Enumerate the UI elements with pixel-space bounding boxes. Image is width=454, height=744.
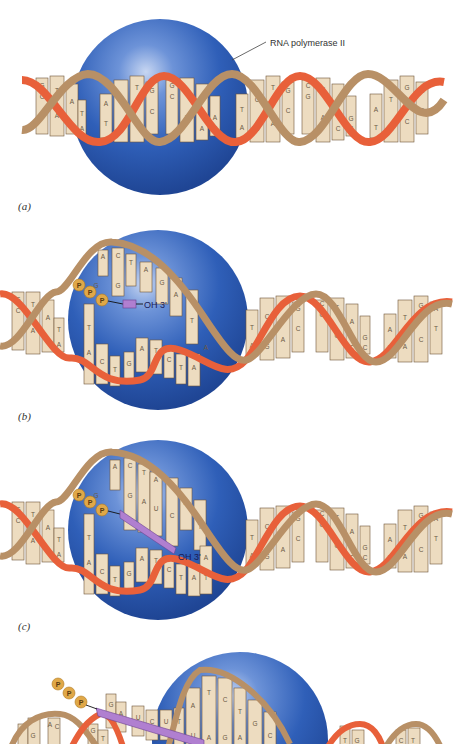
svg-text:T: T (250, 324, 254, 331)
callout-line (232, 42, 266, 60)
svg-text:G: G (127, 492, 132, 499)
svg-text:T: T (403, 524, 407, 531)
svg-text:C: C (100, 358, 105, 365)
svg-text:C: C (296, 535, 301, 542)
svg-text:A: A (213, 114, 218, 121)
svg-text:A: A (240, 124, 245, 131)
svg-text:A: A (174, 291, 179, 298)
svg-text:P: P (77, 492, 82, 499)
svg-text:T: T (411, 737, 415, 744)
svg-text:U: U (154, 505, 159, 512)
svg-text:T: T (113, 366, 117, 373)
svg-text:T: T (343, 737, 347, 744)
svg-text:T: T (80, 110, 84, 117)
svg-text:C: C (55, 723, 60, 730)
panel-a-illustration: GCTAATTA ATCGTAGC GCATTAAT TACGTAGC CGTA… (0, 0, 454, 220)
svg-text:T: T (207, 689, 211, 696)
svg-text:G: G (362, 334, 367, 341)
svg-text:A: A (101, 253, 106, 260)
panel-b: GCTAATTA ACGTAGAT TACTGATCTAAT G TACGTAG… (0, 220, 454, 430)
svg-text:T: T (389, 96, 393, 103)
svg-text:C: C (116, 252, 121, 259)
svg-text:T: T (179, 574, 183, 581)
svg-text:C: C (223, 696, 228, 703)
svg-text:G: G (115, 282, 120, 289)
svg-text:P: P (100, 297, 105, 304)
svg-text:P: P (67, 690, 72, 697)
svg-text:G: G (404, 84, 409, 91)
svg-text:A: A (388, 326, 393, 333)
svg-text:T: T (57, 326, 61, 333)
svg-text:T: T (238, 708, 242, 715)
svg-text:G: G (90, 727, 95, 734)
svg-text:A: A (46, 524, 51, 531)
rna-polymerase-sphere (72, 19, 248, 195)
svg-text:C: C (170, 512, 175, 519)
svg-text:T: T (142, 469, 146, 476)
svg-text:A: A (57, 341, 62, 348)
svg-text:T: T (104, 120, 108, 127)
panel-a: GCTAATTA ATCGTAGC GCATTAAT TACGTAGC CGTA… (0, 0, 454, 220)
svg-text:G: G (354, 737, 359, 744)
panel-label-c: (c) (18, 620, 30, 632)
svg-text:T: T (434, 325, 438, 332)
svg-text:A: A (200, 125, 205, 132)
svg-text:C: C (150, 108, 155, 115)
svg-text:A: A (281, 546, 286, 553)
svg-text:A: A (46, 314, 51, 321)
svg-text:P: P (88, 499, 93, 506)
svg-text:G: G (305, 93, 310, 100)
svg-text:A: A (142, 498, 147, 505)
svg-text:C: C (419, 336, 424, 343)
svg-text:T: T (190, 317, 194, 324)
svg-text:A: A (48, 721, 53, 728)
svg-text:G: G (362, 544, 367, 551)
svg-text:G: G (252, 720, 257, 727)
svg-text:A: A (113, 463, 118, 470)
svg-text:C: C (399, 737, 404, 744)
svg-text:G: G (30, 732, 35, 739)
panel-c: GCTAATTA ACGTAAUGCAT TACTGATCTAAT G TACG… (0, 430, 454, 640)
svg-text:T: T (101, 735, 105, 742)
svg-text:T: T (179, 364, 183, 371)
svg-text:G: G (126, 570, 131, 577)
svg-text:T: T (403, 314, 407, 321)
svg-text:P: P (79, 699, 84, 706)
svg-text:A: A (104, 100, 109, 107)
svg-text:U: U (164, 718, 169, 725)
svg-text:T: T (31, 511, 35, 518)
svg-text:T: T (271, 84, 275, 91)
three-prime-oh-label: OH 3' (178, 552, 201, 562)
svg-text:A: A (70, 98, 75, 105)
svg-text:C: C (296, 325, 301, 332)
svg-text:C: C (167, 566, 172, 573)
panel-d: GAC GCT GAUCU TAAUTACGTAGC TGCT PPP (0, 640, 454, 744)
svg-text:A: A (281, 336, 286, 343)
svg-text:P: P (56, 681, 61, 688)
svg-text:A: A (350, 528, 355, 535)
svg-text:G: G (159, 279, 164, 286)
rna-polymerase-label: RNA polymerase II (270, 38, 345, 48)
svg-text:A: A (140, 555, 145, 562)
svg-text:A: A (388, 536, 393, 543)
svg-text:A: A (57, 551, 62, 558)
svg-text:A: A (144, 266, 149, 273)
svg-text:T: T (434, 535, 438, 542)
svg-text:C: C (336, 125, 341, 132)
svg-text:T: T (113, 576, 117, 583)
panel-c-illustration: GCTAATTA ACGTAAUGCAT TACTGATCTAAT G TACG… (0, 430, 454, 640)
svg-text:T: T (31, 301, 35, 308)
svg-text:A: A (154, 476, 159, 483)
svg-text:T: T (87, 534, 91, 541)
panel-label-b: (b) (18, 410, 31, 422)
svg-text:C: C (405, 118, 410, 125)
svg-text:C: C (128, 462, 133, 469)
panel-b-illustration: GCTAATTA ACGTAGAT TACTGATCTAAT G TACGTAG… (0, 220, 454, 430)
rna-polymerase-sphere (68, 230, 248, 410)
svg-text:G: G (108, 701, 113, 708)
svg-text:A: A (192, 364, 197, 371)
svg-text:A: A (87, 559, 92, 566)
svg-text:C: C (286, 107, 291, 114)
three-prime-oh-label: OH 3' (144, 300, 167, 310)
svg-text:P: P (100, 507, 105, 514)
